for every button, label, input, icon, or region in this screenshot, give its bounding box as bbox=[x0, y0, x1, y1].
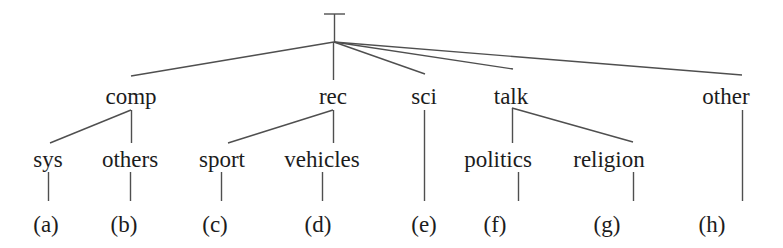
node-politics: politics bbox=[464, 148, 532, 171]
edge-root-other bbox=[334, 42, 742, 75]
leaf-g: (g) bbox=[594, 213, 621, 236]
edge-comp-sys bbox=[50, 110, 131, 143]
leaf-d: (d) bbox=[305, 213, 332, 236]
node-sport: sport bbox=[199, 148, 245, 171]
leaf-c: (c) bbox=[202, 213, 228, 236]
edge-root-comp bbox=[131, 42, 334, 76]
edge-rec-sport bbox=[228, 110, 333, 143]
leaf-b: (b) bbox=[111, 213, 138, 236]
leaf-f: (f) bbox=[484, 213, 507, 236]
node-other: other bbox=[702, 85, 749, 108]
node-talk: talk bbox=[494, 85, 529, 108]
edge-root-sci bbox=[334, 42, 425, 74]
leaf-h: (h) bbox=[699, 213, 726, 236]
node-others: others bbox=[102, 148, 158, 171]
tree-diagram: comp rec sci talk other sys others sport… bbox=[0, 0, 783, 248]
node-vehicles: vehicles bbox=[284, 148, 359, 171]
edge-root-talk bbox=[334, 42, 513, 69]
node-sys: sys bbox=[33, 148, 62, 171]
edge-talk-religion bbox=[512, 108, 633, 142]
node-sci: sci bbox=[411, 85, 437, 108]
node-comp: comp bbox=[105, 85, 156, 108]
leaf-e: (e) bbox=[411, 213, 437, 236]
node-religion: religion bbox=[573, 148, 645, 171]
node-rec: rec bbox=[319, 85, 347, 108]
leaf-a: (a) bbox=[33, 213, 59, 236]
